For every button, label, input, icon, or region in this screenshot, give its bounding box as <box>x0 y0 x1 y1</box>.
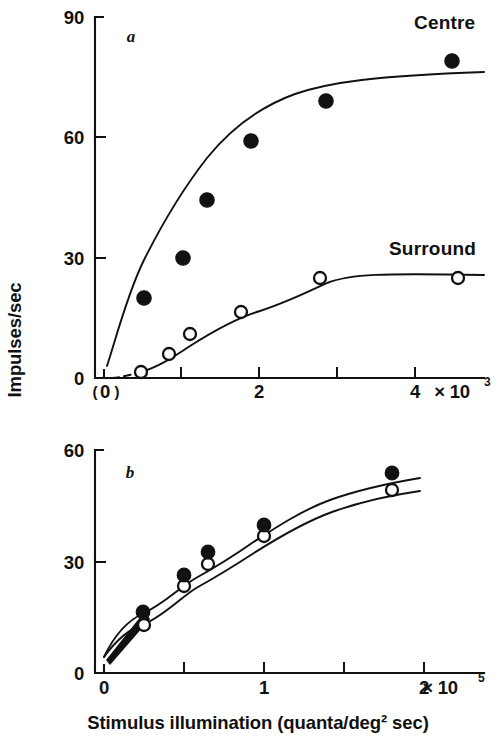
y-axis-title: Impulses/sec <box>4 282 25 397</box>
data-point-surround-2 <box>163 348 175 360</box>
data-point-b-open-5 <box>386 484 398 496</box>
panel-b-x-axis <box>104 665 484 673</box>
panel-a-centre-curve <box>107 72 484 366</box>
panel-a-origin-open-paren: ( <box>93 383 98 400</box>
panel-b: 60 30 0 0 1 2 × 10 5 b <box>64 440 485 698</box>
data-point-b-open-3 <box>202 558 214 570</box>
series-label-centre: Centre <box>414 12 475 33</box>
panel-a-x-axis <box>104 370 484 378</box>
panel-b-x-exponent-base: × 10 <box>422 677 458 698</box>
data-point-b-filled-1 <box>136 605 150 619</box>
panel-b-y-label-60: 60 <box>64 440 84 461</box>
panel-b-filled-points <box>136 466 399 619</box>
panel-b-x-label-0: 0 <box>99 677 109 698</box>
data-point-b-filled-2 <box>177 568 191 582</box>
panel-a-x-label-4: 4 <box>410 381 421 402</box>
panel-b-curve-open <box>104 491 420 657</box>
panel-a-x-exponent-base: × 10 <box>434 381 470 402</box>
panel-b-y-label-0: 0 <box>74 663 84 684</box>
series-label-surround: Surround <box>389 238 476 259</box>
data-point-centre-1 <box>137 291 151 305</box>
panel-b-open-points <box>138 484 398 631</box>
data-point-b-filled-4 <box>257 518 271 532</box>
data-point-surround-4 <box>235 306 247 318</box>
panel-a-letter: a <box>127 27 136 46</box>
data-point-b-filled-3 <box>201 545 215 559</box>
panel-a: 90 60 30 0 ( 0 ) 2 4 × 10 3 a <box>64 7 491 402</box>
data-point-centre-2 <box>176 251 190 265</box>
data-point-surround-5 <box>314 272 326 284</box>
panel-a-y-label-90: 90 <box>64 7 84 28</box>
panel-a-surround-points <box>135 272 464 378</box>
panel-b-x-label-1: 1 <box>259 677 269 698</box>
data-point-centre-5 <box>319 94 333 108</box>
data-point-surround-6 <box>452 272 464 284</box>
panel-a-y-axis <box>95 17 103 378</box>
panel-a-origin-close-paren: ) <box>115 383 120 400</box>
panel-a-x-label-0: 0 <box>100 381 110 402</box>
data-point-surround-3 <box>184 328 196 340</box>
panel-a-surround-curve <box>141 274 484 372</box>
panel-b-letter: b <box>126 463 135 482</box>
panel-a-y-label-0: 0 <box>74 368 84 389</box>
panel-b-curve-filled <box>104 478 420 657</box>
panel-b-y-label-30: 30 <box>64 552 84 573</box>
figure-svg: 90 60 30 0 ( 0 ) 2 4 × 10 3 a <box>0 0 498 755</box>
data-point-surround-1 <box>135 366 147 378</box>
panel-a-centre-points <box>137 54 459 305</box>
panel-a-x-label-2: 2 <box>254 381 264 402</box>
panel-a-x-exponent-power: 3 <box>484 375 491 389</box>
x-axis-title: Stimulus illumination (quanta/deg² sec) <box>87 712 428 733</box>
data-point-centre-3 <box>200 193 214 207</box>
panel-b-x-exponent-power: 5 <box>478 671 485 685</box>
panel-a-y-label-60: 60 <box>64 127 84 148</box>
figure-root: 90 60 30 0 ( 0 ) 2 4 × 10 3 a <box>0 0 498 755</box>
data-point-centre-6 <box>445 54 459 68</box>
data-point-centre-4 <box>244 134 258 148</box>
data-point-b-open-1 <box>138 619 150 631</box>
panel-a-y-label-30: 30 <box>64 248 84 269</box>
data-point-b-filled-5 <box>385 466 399 480</box>
